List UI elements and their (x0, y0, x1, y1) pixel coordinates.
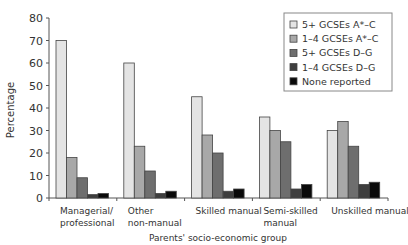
bar (280, 142, 291, 198)
bar (145, 171, 156, 198)
y-tick-label: 70 (29, 35, 43, 48)
legend-swatch (290, 35, 297, 42)
bar (98, 194, 109, 199)
y-tick-label: 80 (29, 12, 43, 25)
x-tick-label: non-manual (128, 218, 182, 228)
bar (88, 195, 99, 198)
x-axis: Managerial/professionalOthernon-manualSk… (49, 198, 408, 228)
bar (223, 191, 234, 198)
bar (166, 191, 177, 198)
legend-label: 1–4 GCSEs D–G (302, 62, 375, 73)
bar (234, 189, 245, 198)
legend-swatch (290, 78, 297, 85)
y-tick-label: 40 (29, 102, 43, 115)
bar (348, 146, 359, 198)
bar (369, 182, 380, 198)
bar (67, 158, 78, 199)
bar (259, 117, 270, 198)
y-tick-label: 20 (29, 147, 43, 160)
x-tick-label: Managerial/ (60, 206, 114, 216)
x-tick-label: manual (263, 218, 297, 228)
bar (192, 97, 203, 198)
bar (77, 178, 88, 198)
bar (155, 194, 166, 199)
x-tick-label: Skilled manual (196, 206, 262, 216)
y-tick-label: 0 (36, 192, 43, 205)
bar (338, 122, 349, 199)
bar (291, 189, 302, 198)
legend-label: None reported (302, 76, 371, 87)
bar (359, 185, 370, 199)
x-tick-label: Unskilled manual (331, 206, 408, 216)
grouped-bar-chart: 01020304050607080 Managerial/professiona… (0, 0, 408, 245)
y-axis: 01020304050607080 (29, 12, 49, 205)
y-tick-label: 50 (29, 80, 43, 93)
bar (301, 185, 312, 199)
legend-label: 1–4 GCSEs A*–C (302, 33, 379, 44)
legend: 5+ GCSEs A*–C1–4 GCSEs A*–C5+ GCSEs D–G1… (284, 13, 392, 91)
x-axis-label: Parents' socio-economic group (149, 233, 287, 243)
bar (56, 41, 67, 199)
bar (134, 146, 145, 198)
bar (270, 131, 281, 199)
x-tick-label: Other (128, 206, 154, 216)
legend-swatch (290, 49, 297, 56)
bar (202, 135, 213, 198)
y-tick-label: 30 (29, 125, 43, 138)
bar (327, 131, 338, 199)
legend-swatch (290, 21, 297, 28)
x-tick-label: professional (60, 218, 115, 228)
x-tick-label: Semi-skilled (263, 206, 317, 216)
bar (213, 153, 224, 198)
legend-label: 5+ GCSEs D–G (302, 47, 372, 58)
y-tick-label: 10 (29, 170, 43, 183)
y-tick-label: 60 (29, 57, 43, 70)
bar (124, 63, 135, 198)
legend-swatch (290, 64, 297, 71)
legend-label: 5+ GCSEs A*–C (302, 19, 376, 30)
y-axis-label: Percentage (5, 82, 16, 138)
